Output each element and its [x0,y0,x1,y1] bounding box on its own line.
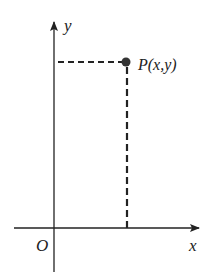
y-axis-label: y [62,16,72,35]
point-p-label: P(x,y) [137,56,177,74]
origin-label: O [36,236,48,255]
point-p [122,58,131,67]
x-axis-label: x [188,236,197,255]
coordinate-diagram: y P(x,y) O x [0,0,208,279]
